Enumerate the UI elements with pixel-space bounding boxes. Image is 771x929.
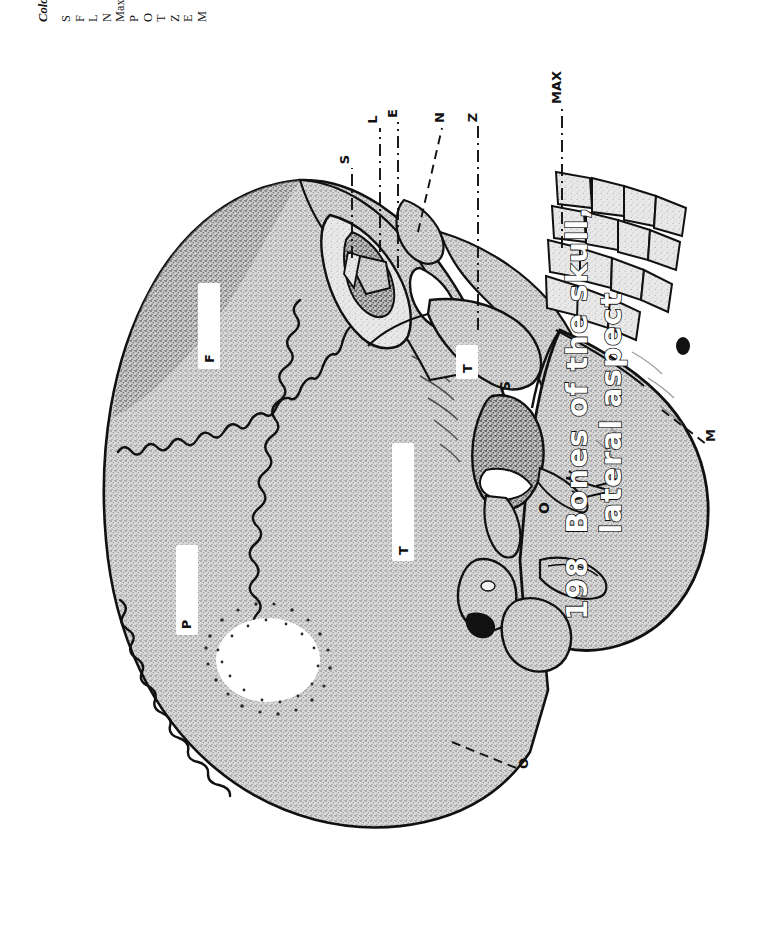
- legend-key: S: [60, 0, 74, 22]
- legend-key: N: [101, 0, 115, 22]
- callout-label-m: M: [703, 429, 718, 442]
- legend-key: O: [142, 0, 156, 22]
- bone-chip-t-small: T: [456, 345, 478, 379]
- bone-chip-label: T: [460, 364, 475, 373]
- legend-row: Max Maxillary bone: [114, 0, 128, 22]
- plate-title-block: 198 Bones of the skull, lateral aspect: [560, 620, 771, 920]
- plate-title-line-1: Bones of the skull,: [560, 206, 594, 534]
- legend-key: L: [87, 0, 101, 22]
- legend-key: Z: [169, 0, 183, 22]
- legend-row: O Occipital bone: [142, 0, 156, 22]
- legend-key: E: [182, 0, 196, 22]
- legend-key: P: [128, 0, 142, 22]
- legend-key: Max: [114, 0, 128, 22]
- plate-number: 198: [560, 556, 594, 620]
- legend-row: S Sphenoid bone: [60, 0, 74, 22]
- callout-label-s: S: [337, 155, 352, 164]
- legend-row: Z Zygomatic bone: [169, 0, 183, 22]
- plate-title-line-2: lateral aspect: [594, 206, 628, 534]
- legend-row: F Frontal bone: [74, 0, 88, 22]
- plate-title: Bones of the skull, lateral aspect: [560, 206, 628, 534]
- inline-letter-s-sphenoid: S: [497, 381, 513, 391]
- callout-label-o-lower: O: [516, 758, 531, 769]
- bone-chip-f: F: [198, 283, 220, 369]
- plate-page: Color and label S Sphenoid bone F Fronta…: [0, 0, 771, 929]
- callout-label-n: N: [432, 112, 447, 123]
- bone-chip-label: F: [201, 354, 216, 363]
- legend-row: M Mandible: [196, 0, 210, 22]
- callout-label-e: E: [385, 109, 400, 118]
- callout-label-max: MAX: [549, 71, 564, 104]
- inline-letter-o-occipital: O: [536, 502, 552, 514]
- bone-chip-label: T: [396, 546, 411, 555]
- bone-chip-t: T: [392, 443, 414, 561]
- legend-heading: Color and label: [36, 0, 51, 22]
- legend-key: F: [74, 0, 88, 22]
- bone-chip-label: P: [180, 620, 195, 630]
- legend-row: N Nasal bone: [101, 0, 115, 22]
- legend-row: P Parietal bone: [128, 0, 142, 22]
- legend-row: T Temporal bone: [155, 0, 169, 22]
- callout-label-z: Z: [465, 113, 480, 122]
- legend-key: T: [155, 0, 169, 22]
- bone-chip-p: P: [176, 545, 198, 635]
- callout-label-l: L: [365, 115, 380, 123]
- legend-key: M: [196, 0, 210, 22]
- legend-row: E Ethmoid bone: [182, 0, 196, 22]
- legend-row: L Lacrimal bone: [87, 0, 101, 22]
- legend: Color and label S Sphenoid bone F Fronta…: [36, 22, 296, 212]
